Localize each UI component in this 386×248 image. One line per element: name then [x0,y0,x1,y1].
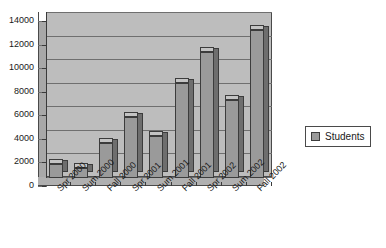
x-axis-tick [196,182,197,186]
bar-side-face [113,139,118,172]
y-axis-tick [42,92,46,93]
x-axis-labels: Spr 2000Sum 2000Fall 2000Spr 2001Sum 200… [38,186,288,248]
bar-slot [71,12,96,178]
bar-slot [46,12,71,178]
bar-top-face [49,159,63,164]
legend-swatch-students [311,132,320,141]
x-axis-tick [70,182,71,186]
bar-top-face [124,112,138,117]
bar [200,52,214,178]
bar [250,30,264,179]
bar-slot [247,12,272,178]
x-axis-tick [271,182,272,186]
bar-side-face [214,48,219,172]
bar-top-face [99,138,113,143]
bar-slot [96,12,121,178]
x-axis-tick [120,182,121,186]
bar-slot [121,12,146,178]
y-axis-tick [42,162,46,163]
y-axis-tick-label: 6000 [0,110,38,119]
bar-slot [222,12,247,178]
y-axis-tick [42,45,46,46]
y-axis-tick-label: 4000 [0,134,38,143]
bar-side-face [189,79,194,172]
bar-top-face [175,78,189,83]
y-axis-tick-label: 10000 [0,63,38,72]
bar-top-face [149,131,163,136]
y-axis-tick-label: 2000 [0,157,38,166]
bar-slot [146,12,171,178]
bar [49,164,63,178]
x-axis-tick [95,182,96,186]
bar-slot [197,12,222,178]
bar-top-face [200,47,214,52]
x-axis-tick [246,182,247,186]
y-axis-tick-label: 14000 [0,16,38,25]
y-axis-tick [42,139,46,140]
y-axis-tick-label: 8000 [0,87,38,96]
y-axis-tick-label: 0 [0,181,38,190]
y-axis-tick [42,21,46,22]
y-axis-tick [42,115,46,116]
x-axis-tick [145,182,146,186]
bar-slot [172,12,197,178]
x-axis-tick [221,182,222,186]
chart-legend: Students [305,126,371,147]
bar-side-face [163,132,168,172]
bar-chart: 02000400060008000100001200014000 Spr 200… [0,0,386,248]
bar-side-face [63,160,68,172]
bar-top-face [225,95,239,100]
legend-label-students: Students [325,131,364,142]
y-axis-tick [42,68,46,69]
bars-layer [46,12,272,178]
bar-side-face [88,164,93,172]
bar-top-face [250,25,264,30]
bar-side-face [264,26,269,173]
y-axis-tick-label: 12000 [0,40,38,49]
x-axis-tick [171,182,172,186]
bar-side-face [239,96,244,172]
bar-side-face [138,113,143,172]
